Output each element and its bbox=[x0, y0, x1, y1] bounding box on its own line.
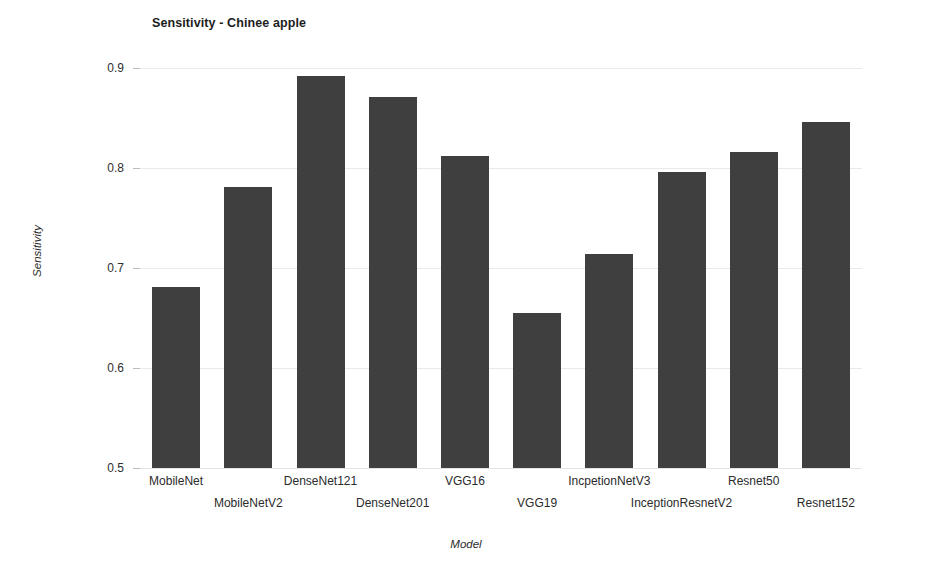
bar[interactable] bbox=[730, 152, 778, 468]
x-tick-label: Resnet152 bbox=[797, 496, 855, 510]
x-tick-label: MobileNet bbox=[149, 474, 203, 488]
chart-title: Sensitivity - Chinee apple bbox=[152, 16, 306, 30]
bar[interactable] bbox=[802, 122, 850, 468]
x-tick-label: DenseNet201 bbox=[356, 496, 429, 510]
x-tick-label: VGG19 bbox=[517, 496, 557, 510]
chart-figure: Sensitivity - Chinee apple Sensitivity M… bbox=[0, 0, 932, 577]
plot-area bbox=[140, 68, 862, 468]
gridline bbox=[140, 468, 862, 469]
y-tick-mark bbox=[133, 268, 140, 269]
bar[interactable] bbox=[441, 156, 489, 468]
y-tick-label: 0.6 bbox=[78, 361, 124, 375]
y-tick-mark bbox=[133, 368, 140, 369]
y-tick-mark bbox=[133, 168, 140, 169]
bar[interactable] bbox=[369, 97, 417, 468]
y-tick-mark bbox=[133, 468, 140, 469]
y-axis-title: Sensitivity bbox=[31, 201, 43, 301]
bar[interactable] bbox=[297, 76, 345, 468]
x-tick-label: InceptionResnetV2 bbox=[631, 496, 732, 510]
y-tick-label: 0.9 bbox=[78, 61, 124, 75]
x-axis-title: Model bbox=[0, 538, 932, 550]
x-tick-label: DenseNet121 bbox=[284, 474, 357, 488]
x-tick-label: Resnet50 bbox=[728, 474, 779, 488]
y-tick-label: 0.8 bbox=[78, 161, 124, 175]
x-tick-label: MobileNetV2 bbox=[214, 496, 283, 510]
bar[interactable] bbox=[658, 172, 706, 468]
bar[interactable] bbox=[585, 254, 633, 468]
y-tick-mark bbox=[133, 68, 140, 69]
x-tick-label: IncpetionNetV3 bbox=[568, 474, 650, 488]
bar[interactable] bbox=[224, 187, 272, 468]
bar[interactable] bbox=[152, 287, 200, 468]
x-tick-label: VGG16 bbox=[445, 474, 485, 488]
y-tick-label: 0.5 bbox=[78, 461, 124, 475]
gridline bbox=[140, 68, 862, 69]
bar[interactable] bbox=[513, 313, 561, 468]
y-tick-label: 0.7 bbox=[78, 261, 124, 275]
